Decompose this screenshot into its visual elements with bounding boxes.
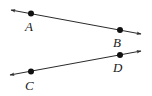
point-a [28, 11, 34, 17]
label-b: B [113, 35, 121, 50]
label-a: A [24, 19, 33, 34]
label-d: D [112, 60, 123, 75]
point-b [117, 27, 123, 33]
diagram-canvas: A B C D [0, 0, 152, 96]
point-c [28, 69, 34, 75]
diagram-svg: A B C D [0, 0, 152, 96]
point-d [117, 52, 123, 58]
label-c: C [25, 78, 34, 93]
